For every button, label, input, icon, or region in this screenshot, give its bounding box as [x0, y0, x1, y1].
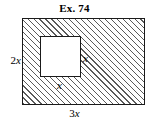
dimension-label-outer-width: 3x — [0, 107, 149, 119]
exercise-figure: Ex. 74 2x x x 3x — [0, 0, 149, 123]
inner-white-square — [40, 36, 81, 77]
figure-title: Ex. 74 — [0, 2, 149, 15]
dimension-label-inner-right: x — [83, 52, 88, 64]
dimension-label-inner-bottom: x — [57, 79, 62, 91]
dimension-label-outer-height: 2x — [5, 54, 21, 66]
